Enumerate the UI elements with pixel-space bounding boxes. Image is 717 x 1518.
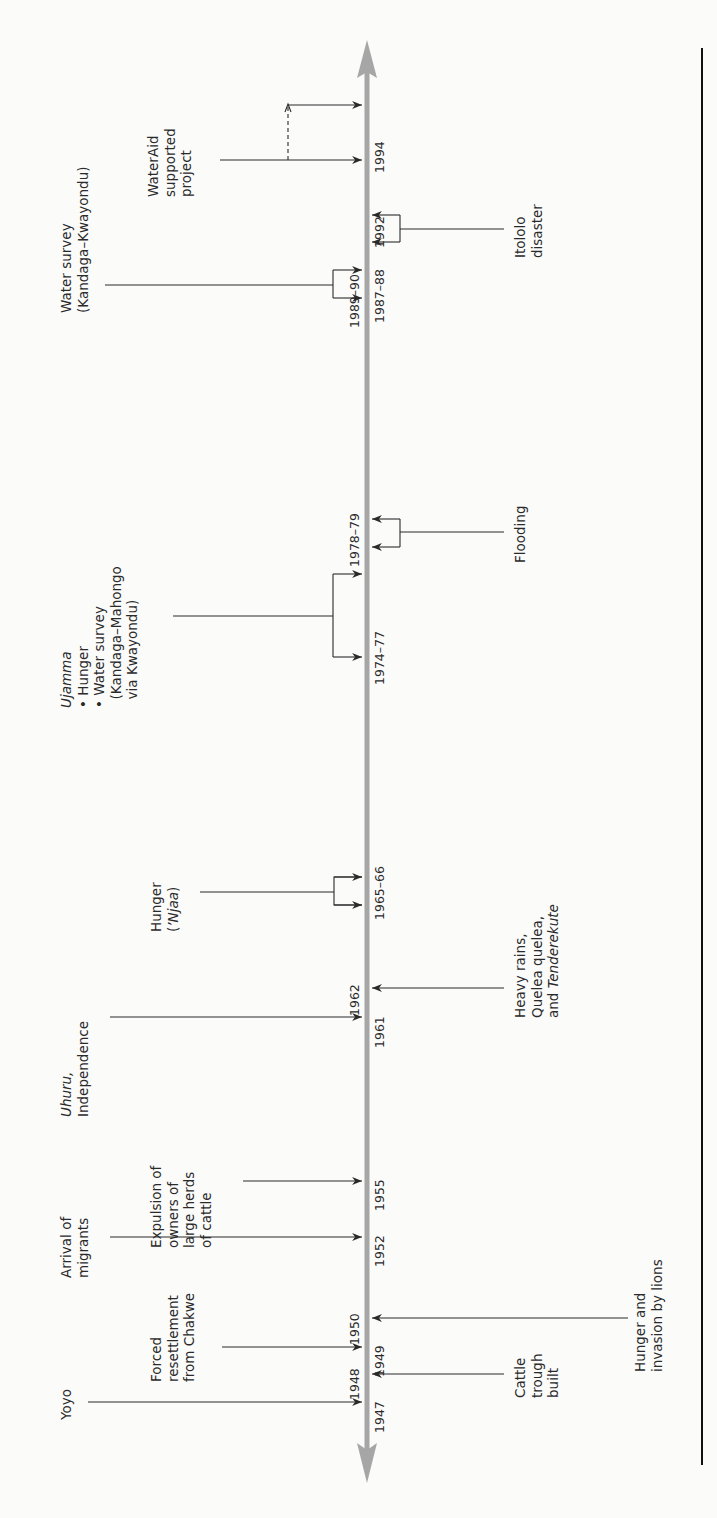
event-expulsion: Expulsion of owners of large herds of ca… xyxy=(148,1166,214,1248)
arrow-water-survey-kk xyxy=(105,270,362,298)
year-1974-77: 1974–77 xyxy=(373,631,387,685)
year-1994: 1994 xyxy=(373,141,387,173)
year-1987-88: 1987–88 xyxy=(373,269,387,323)
arrow-ujamma xyxy=(173,574,362,657)
year-1989-90: 1989–90 xyxy=(348,274,362,328)
arrow-flooding xyxy=(372,519,504,547)
year-1978-79: 1978–79 xyxy=(348,513,362,567)
event-ujamma: Ujamma • Hunger • Water survey (Kandaga–… xyxy=(58,566,141,708)
year-1992: 1992 xyxy=(373,216,387,248)
year-1961: 1961 xyxy=(373,1016,387,1048)
year-1950: 1950 xyxy=(348,1313,362,1345)
event-yoyo: Yoyo xyxy=(58,1389,75,1420)
arrow-wateraid xyxy=(220,104,362,160)
year-1949: 1949 xyxy=(373,1345,387,1377)
year-1952: 1952 xyxy=(373,1235,387,1267)
event-heavy-rains: Heavy rains, Quelea quelea, and Tenderek… xyxy=(512,904,562,1018)
event-wateraid: WaterAid supported project xyxy=(145,128,195,197)
event-cattle-trough: Cattle trough built xyxy=(512,1354,562,1399)
event-flooding: Flooding xyxy=(512,506,529,563)
arrow-itololo xyxy=(372,215,504,242)
event-hunger-lions: Hunger and invasion by lions xyxy=(632,1259,665,1372)
event-forced-resettlement: Forced resettlement from Chakwe xyxy=(148,1293,198,1382)
event-water-survey-kk: Water survey (Kandaga–Kwayondu) xyxy=(58,166,91,313)
timeline-lines xyxy=(0,0,717,1518)
year-1955: 1955 xyxy=(373,1179,387,1211)
year-1965-66: 1965–66 xyxy=(373,866,387,920)
event-uhuru: Uhuru, Independence xyxy=(58,1021,91,1117)
event-hunger-njaa: Hunger (’Njaa) xyxy=(148,882,181,932)
year-1962: 1962 xyxy=(348,984,362,1016)
event-itololo: Itololo disaster xyxy=(512,204,545,258)
event-arrival-migrants: Arrival of migrants xyxy=(58,1217,91,1278)
year-1948: 1948 xyxy=(348,1368,362,1400)
year-1947: 1947 xyxy=(373,1401,387,1433)
timeline-diagram: 1948 1950 1962 1978–79 1989–90 1947 1949… xyxy=(0,0,717,1518)
arrow-hunger-njaa xyxy=(200,877,362,905)
